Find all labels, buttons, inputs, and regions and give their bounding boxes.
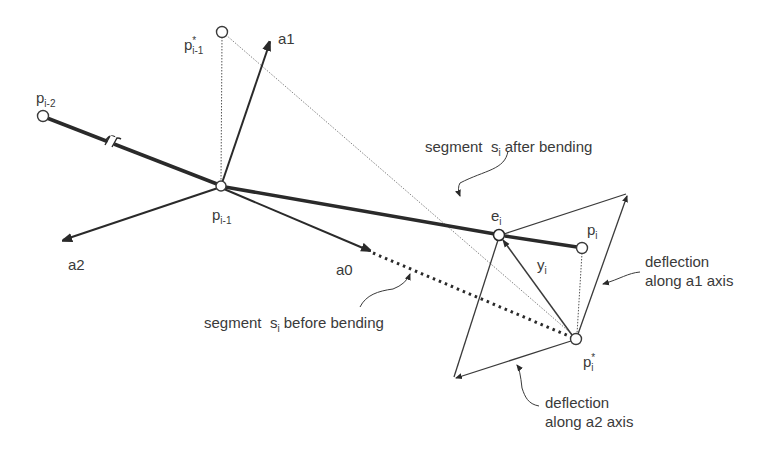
label-axis-a1: a1 xyxy=(278,31,295,46)
bending-diagram: pi-2 p*i-1 pi-1 ei pi yi p*i a1 a2 a0 se… xyxy=(0,0,780,454)
diagram-graphics xyxy=(0,0,780,454)
label-p-i-minus-1: pi-1 xyxy=(212,207,231,226)
segment-e-to-p xyxy=(505,236,577,247)
point-e-i xyxy=(494,230,505,241)
point-p-i xyxy=(577,243,588,254)
axis-a1-arrow xyxy=(222,42,270,183)
projection-line-p-i xyxy=(577,253,582,334)
projection-line-diagonal xyxy=(226,35,573,335)
annotation-before-bending: segment si before bending xyxy=(204,313,384,338)
projection-line-p-star-i-1 xyxy=(221,37,222,181)
point-p-i-minus-2 xyxy=(38,111,49,122)
point-p-star-i-minus-1 xyxy=(217,27,228,38)
point-p-i-minus-1 xyxy=(216,181,226,191)
y-i-vector xyxy=(503,240,572,335)
label-e-i: ei xyxy=(491,208,502,227)
parallelogram-edge-top xyxy=(504,194,626,234)
annotation-deflection-a1: deflection along a1 axis xyxy=(645,252,733,290)
annotation-deflection-a2: deflection along a2 axis xyxy=(545,393,633,431)
label-p-star-i-minus-1: p*i-1 xyxy=(184,36,203,56)
deflection-a2-vector xyxy=(456,341,571,378)
annotation-after-bending: segment si after bending xyxy=(425,137,592,162)
label-p-i: pi xyxy=(587,222,598,241)
axis-a2-arrow xyxy=(63,188,218,240)
label-y-i: yi xyxy=(537,257,547,276)
leader-before-bending xyxy=(360,274,410,307)
label-axis-a0: a0 xyxy=(336,262,353,277)
point-p-star-i xyxy=(571,334,582,345)
leader-deflection-a1 xyxy=(603,272,640,284)
leader-deflection-a2 xyxy=(517,365,539,406)
label-p-i-minus-2: pi-2 xyxy=(36,90,55,109)
segment-after-bending xyxy=(225,187,495,234)
parallelogram-edge-left xyxy=(454,240,498,377)
label-p-star-i: p*i xyxy=(583,353,593,373)
deflection-a1-vector xyxy=(578,196,627,334)
label-axis-a2: a2 xyxy=(68,257,85,272)
segment-prev xyxy=(47,118,217,184)
